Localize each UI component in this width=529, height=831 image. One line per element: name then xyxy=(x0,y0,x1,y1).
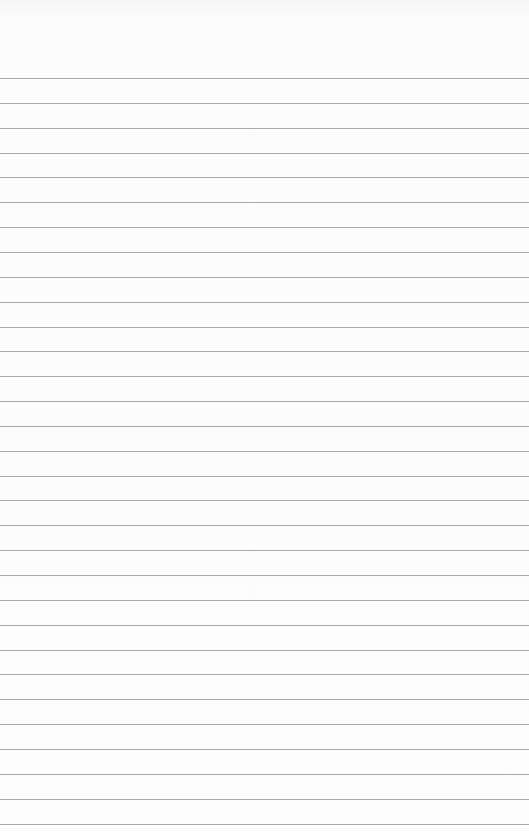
ruled-line xyxy=(0,476,529,477)
ruled-line xyxy=(0,103,529,104)
ruled-line xyxy=(0,674,529,675)
ruled-line xyxy=(0,550,529,551)
ruled-line xyxy=(0,724,529,725)
ruled-line xyxy=(0,277,529,278)
ruled-line xyxy=(0,600,529,601)
ruled-line xyxy=(0,227,529,228)
ruled-line xyxy=(0,153,529,154)
ruled-line xyxy=(0,351,529,352)
ruled-line xyxy=(0,799,529,800)
ruled-line xyxy=(0,699,529,700)
ruled-line xyxy=(0,650,529,651)
ruled-line xyxy=(0,78,529,79)
ruled-line xyxy=(0,376,529,377)
ruled-line xyxy=(0,202,529,203)
ruled-line xyxy=(0,252,529,253)
lined-paper xyxy=(0,0,529,831)
ruled-line xyxy=(0,774,529,775)
ruled-line xyxy=(0,525,529,526)
ruled-line xyxy=(0,426,529,427)
ruled-line xyxy=(0,824,529,825)
ruled-line xyxy=(0,575,529,576)
ruled-line xyxy=(0,749,529,750)
ruled-line xyxy=(0,128,529,129)
ruled-line xyxy=(0,401,529,402)
ruled-line xyxy=(0,177,529,178)
ruled-line xyxy=(0,302,529,303)
ruled-line xyxy=(0,327,529,328)
ruled-line xyxy=(0,625,529,626)
ruled-line xyxy=(0,500,529,501)
ruled-line xyxy=(0,451,529,452)
